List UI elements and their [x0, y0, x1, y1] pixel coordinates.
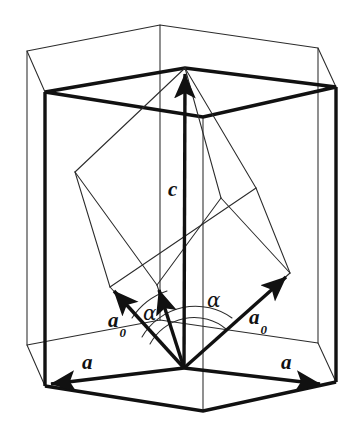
label-vector-a-right: a [281, 352, 292, 373]
prism-top-bold-edges [45, 68, 336, 117]
rhombo-edge-apex-right [185, 68, 256, 188]
rhombo-edge-left-up2 [75, 172, 157, 285]
vector-c [184, 74, 185, 368]
vector-a0-right [184, 277, 286, 368]
rhombo-edge-right-up [221, 198, 290, 273]
rhombo-edge-mid-up [157, 198, 221, 285]
crystal-diagram-svg [0, 0, 364, 427]
vector-a-right [184, 368, 320, 384]
label-vector-a0-right: a0 [249, 307, 266, 331]
label-a0-right-subscript: 0 [261, 322, 268, 337]
label-angle-alpha-right: α [207, 290, 221, 310]
label-a0-right-base: a [249, 305, 260, 329]
label-vector-c: c [168, 179, 177, 200]
label-a0-left-subscript: 0 [120, 325, 127, 340]
rhombo-edge-right-up2 [256, 188, 290, 273]
label-angle-alpha-left: α [143, 303, 157, 323]
crystal-structure-figure: c a0 a0 a a α α [0, 0, 364, 427]
label-vector-a0-left: a0 [108, 310, 125, 334]
label-vector-a-left: a [82, 352, 93, 373]
vector-a-left [51, 368, 184, 384]
label-a0-left-base: a [108, 308, 119, 332]
prism-bottom-bold-edges [45, 382, 336, 411]
rhombo-edge-left-up [75, 172, 110, 287]
